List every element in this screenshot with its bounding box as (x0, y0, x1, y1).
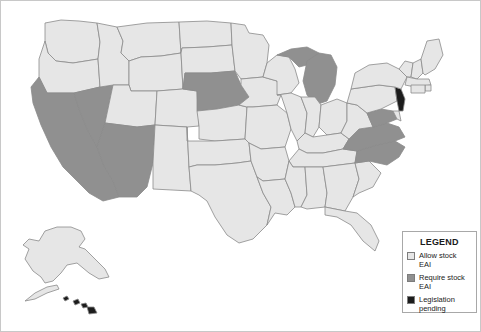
state-CO[interactable] (155, 89, 199, 127)
legend-title: LEGEND (420, 237, 472, 247)
legend-swatch-allow (407, 252, 415, 260)
state-MN[interactable] (231, 23, 269, 79)
legend-swatch-require (407, 274, 415, 282)
state-NJ[interactable] (395, 87, 405, 111)
state-HI[interactable] (63, 296, 97, 314)
state-FL[interactable] (325, 207, 379, 251)
us-map-figure: LEGEND Allow stock EAI Require stock EAI… (0, 0, 481, 332)
state-ME[interactable] (421, 39, 443, 75)
state-GA[interactable] (323, 163, 359, 211)
legend-label-require: Require stock EAI (419, 273, 465, 291)
state-CT[interactable] (411, 85, 425, 93)
state-MO[interactable] (245, 105, 291, 149)
legend-item-require: Require stock EAI (407, 273, 472, 291)
legend-item-pending: Legislation pending (407, 295, 472, 313)
state-NY[interactable] (351, 63, 407, 89)
legend-item-allow: Allow stock EAI (407, 251, 472, 269)
state-NM[interactable] (153, 125, 191, 191)
legend-label-allow: Allow stock EAI (419, 251, 457, 269)
state-AK-aleutians[interactable] (25, 285, 59, 301)
state-WY[interactable] (129, 53, 183, 91)
state-AK[interactable] (23, 227, 109, 283)
state-RI[interactable] (425, 85, 431, 91)
state-WA[interactable] (45, 20, 100, 63)
legend-swatch-pending (407, 296, 415, 304)
legend-label-pending: Legislation pending (419, 295, 455, 313)
state-IA[interactable] (239, 77, 281, 107)
state-UT[interactable] (105, 85, 157, 127)
legend-box: LEGEND Allow stock EAI Require stock EAI… (402, 231, 477, 313)
state-KS[interactable] (197, 105, 247, 141)
